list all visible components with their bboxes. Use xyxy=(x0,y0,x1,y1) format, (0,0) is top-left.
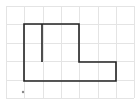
l-shaped-figure xyxy=(24,24,116,81)
reference-dot xyxy=(22,91,24,93)
grid-lines xyxy=(6,6,135,99)
grid-diagram xyxy=(0,0,140,106)
